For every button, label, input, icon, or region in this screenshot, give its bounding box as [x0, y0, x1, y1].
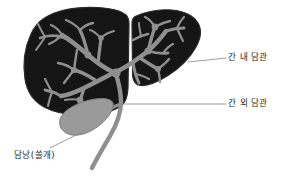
label-extrahepatic-duct: 간 외 담관: [228, 99, 268, 108]
duct-node-left-2: [71, 67, 77, 73]
leader-intrahepatic: [188, 58, 226, 62]
duct-node-left-1: [85, 52, 92, 59]
duct-node-right-1: [144, 47, 151, 54]
duct-node-right-2: [152, 24, 159, 31]
label-gallbladder: 담낭(쓸개): [14, 151, 55, 160]
duct-node-right-3: [155, 66, 161, 72]
duct-node-left-4: [98, 35, 104, 41]
liver-diagram-figure: 간 내 담관 간 외 담관 담낭(쓸개): [0, 0, 282, 186]
label-intrahepatic-duct: 간 내 담관: [228, 53, 268, 62]
